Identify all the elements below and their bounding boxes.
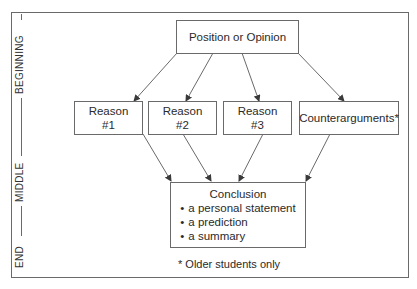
conclusion-item: a prediction <box>180 215 295 229</box>
conclusion-list: a personal statement a prediction a summ… <box>180 201 295 243</box>
reason-3-node: Reason #3 <box>223 101 292 135</box>
reason-number: #3 <box>251 118 264 132</box>
reason-1-node: Reason #1 <box>74 101 143 135</box>
counterarguments-node: Counterarguments* <box>299 101 399 135</box>
reason-number: #2 <box>176 118 189 132</box>
counterarguments-label: Counterarguments* <box>299 111 399 125</box>
conclusion-item: a summary <box>180 229 295 243</box>
reason-label: Reason <box>89 104 129 118</box>
conclusion-node: Conclusion a personal statement a predic… <box>170 182 306 248</box>
position-node: Position or Opinion <box>176 20 299 54</box>
conclusion-title: Conclusion <box>210 187 267 201</box>
reason-number: #1 <box>102 118 115 132</box>
reason-label: Reason <box>238 104 278 118</box>
footnote: * Older students only <box>178 258 280 270</box>
reason-label: Reason <box>163 104 203 118</box>
conclusion-item: a personal statement <box>180 201 295 215</box>
position-label: Position or Opinion <box>189 30 286 44</box>
reason-2-node: Reason #2 <box>148 101 217 135</box>
